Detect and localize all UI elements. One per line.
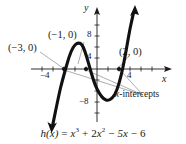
x-intercepts-annotation: x-intercepts (115, 90, 159, 100)
equation-term4: 6 (140, 127, 146, 139)
equation-equals: = (61, 127, 67, 139)
graph-figure: x y −4 4 8 4 −8 (−3, 0) (−1, 0) (2, 0) x… (0, 0, 186, 144)
equation-lhs: h(x) (40, 127, 58, 139)
point-label-2: (2, 0) (119, 47, 142, 58)
equation-op1: + (82, 127, 88, 139)
y-axis-label: y (84, 3, 88, 13)
coordinate-plane-svg (0, 0, 186, 144)
y-tick-label-neg8: −8 (79, 97, 89, 106)
x-axis-label: x (162, 74, 166, 84)
y-axis (94, 7, 100, 122)
function-equation: h(x) = x3 + 2x2 − 5x − 6 (0, 126, 186, 139)
x-axis (31, 66, 172, 72)
equation-op3: − (131, 127, 137, 139)
equation-term2-exp: 2 (102, 126, 106, 134)
equation-op2: − (108, 127, 114, 139)
x-intercepts-rest: -intercepts (119, 89, 159, 99)
point-label-neg1: (−1, 0) (48, 30, 77, 41)
x-tick-label-neg4: −4 (40, 71, 50, 80)
y-tick-label-8: 8 (87, 30, 92, 39)
x-tick-label-4: 4 (127, 71, 132, 80)
point-label-neg3: (−3, 0) (8, 43, 37, 54)
equation-term3: 5x (117, 127, 128, 139)
y-tick-label-4: 4 (87, 52, 92, 61)
equation-term1-exp: 3 (76, 126, 80, 134)
